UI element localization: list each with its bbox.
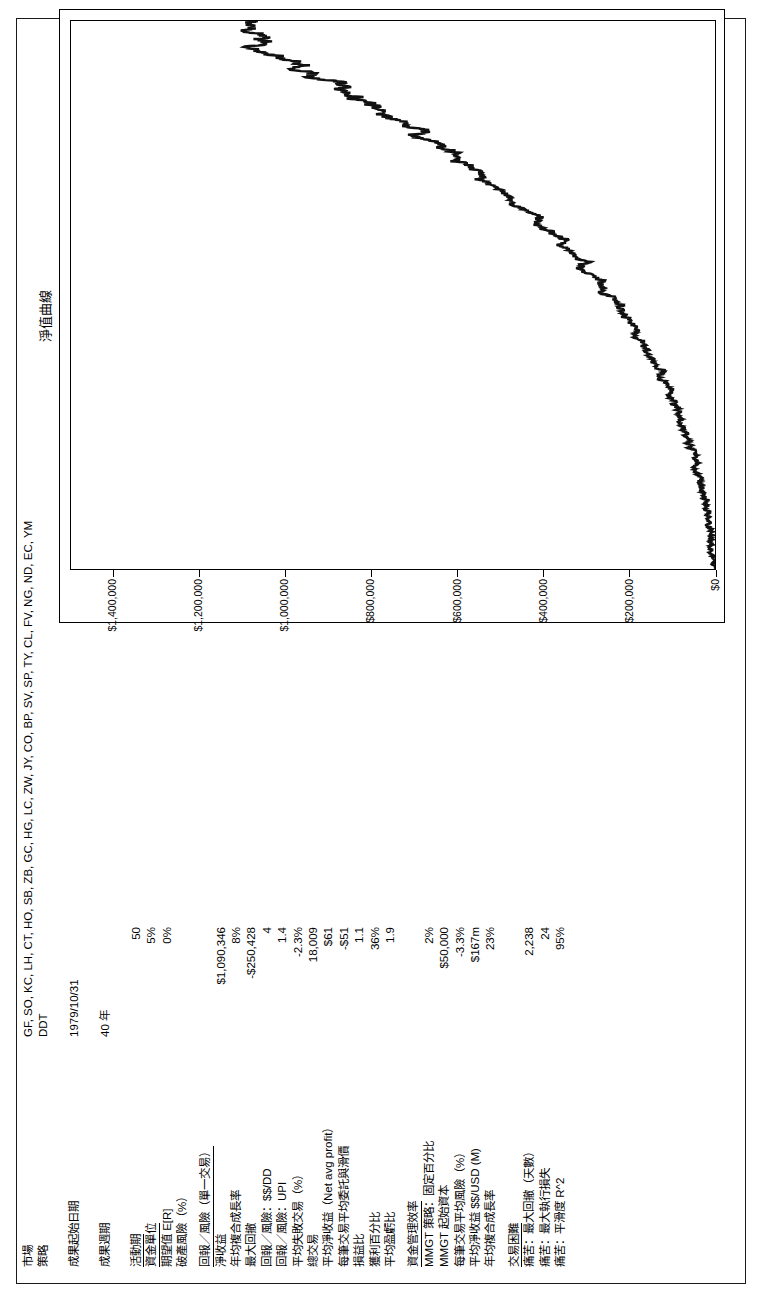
row-mmgt-cagr: 年均複合成長率 23% (485, 633, 500, 1273)
spacer-1 (54, 633, 69, 1273)
section-trade-difficulty: 交易困難 (509, 633, 524, 1273)
value-avg-commission-slippage: -$51 (339, 927, 351, 1037)
row-avg-loss-trade: 平均失敗交易（%） -2.3% (293, 633, 308, 1273)
row-rr-dd: 回報／風險：$$/DD 4 (262, 633, 277, 1273)
label-period: 成果週期 (100, 1223, 112, 1267)
value-period: 40 年 (100, 1010, 112, 1037)
chart-title: 淨值曲線 (35, 1, 54, 631)
label-expectancy: 期望值 E[R] (162, 1208, 174, 1267)
row-pain-smoothness: 痛苦：平滑度 R^2 95% (555, 633, 570, 1273)
equity-curve-chart: 淨值曲線 $1,400,000$1,200,000$1,000,000$800,… (25, 1, 737, 631)
plot-outer-frame: $1,400,000$1,200,000$1,000,000$800,000$6… (59, 9, 725, 623)
row-period: 成果週期 40 年 (100, 633, 115, 1273)
label-capital-unit: 資金單位 (146, 1223, 160, 1267)
row-avg-commission-slippage: 每筆交易平均委託與滑價 -$51 (339, 633, 354, 1273)
label-strategy: 策略 (38, 1245, 50, 1267)
row-net-avg-profit: 平均淨收益（Net avg profit） $61 (323, 633, 338, 1273)
y-axis-tick-mark (113, 570, 114, 577)
row-cagr: 年均複合成長率 8% (231, 633, 246, 1273)
spacer-2 (85, 633, 100, 1273)
label-rr-upi: 回報／風險：UPI (277, 1182, 289, 1267)
y-axis-tick-label: $1,200,000 (192, 579, 204, 649)
spacer-5 (400, 633, 408, 1273)
label-pain-max-exec-loss: 痛苦：最大執行損失 (540, 1168, 552, 1267)
label-mmgt-start-capital: MMGT 起始資本 (439, 1185, 451, 1267)
row-pain-max-exec-loss: 痛苦：最大執行損失 24 (540, 633, 555, 1273)
y-axis-tick-mark (629, 570, 630, 577)
row-avg-net-profit-usd: 平均淨收益 $$/USD (M) $167m (470, 633, 485, 1273)
value-pain-max-exec-loss: 24 (540, 927, 552, 1037)
row-pain-max-dd-days: 痛苦：最大回撤（天數） 2,238 (524, 633, 539, 1273)
value-mmgt-strategy: 2% (424, 927, 436, 1037)
value-avg-win-loss-ratio: 1.9 (385, 927, 397, 1037)
row-expectancy: 期望值 E[R] 0% (162, 633, 177, 1273)
label-mmgt-strategy: MMGT 策略：固定百分比 (424, 1141, 436, 1267)
plot-area (70, 20, 716, 570)
value-avg-trade-risk: -3.3% (455, 927, 467, 1037)
label-net-profit: 淨收益 (216, 1234, 228, 1267)
value-avg-loss-trade: -2.3% (293, 927, 305, 1037)
row-profit-loss-ratio: 損益比 1.1 (354, 633, 369, 1273)
row-net-profit: 淨收益 $1,090,346 (216, 633, 231, 1273)
section-return-risk: 回報／風險（單一交易） (200, 633, 215, 1273)
label-avg-loss-trade: 平均失敗交易（%） (293, 1169, 305, 1267)
y-axis-tick-label: $200,000 (623, 579, 635, 649)
value-strategy: DDT (38, 1013, 50, 1037)
y-axis-tick-mark (716, 570, 717, 577)
y-axis-tick-label: $800,000 (364, 579, 376, 649)
row-avg-trade-risk: 每筆交易平均風險（%） -3.3% (455, 633, 470, 1273)
row-mmgt-strategy: MMGT 策略：固定百分比 2% (424, 633, 439, 1273)
y-axis-tick-label: $1,000,000 (278, 579, 290, 649)
row-strategy: 策略 DDT (38, 633, 53, 1273)
row-capital-unit: 資金單位 5% (146, 633, 161, 1273)
report-page: 市場 GF, SO, KC, LH, CT, HO, SB, ZB, GC, H… (0, 0, 762, 1302)
row-mmgt-start-capital: MMGT 起始資本 $50,000 (439, 633, 454, 1273)
value-mmgt-cagr: 23% (485, 927, 497, 1037)
label-pain-smoothness: 痛苦：平滑度 R^2 (555, 1178, 567, 1267)
row-active-period: 活動期 50 (131, 633, 146, 1273)
spacer-3 (115, 633, 130, 1273)
value-active-period: 50 (131, 927, 143, 1037)
report-frame: 市場 GF, SO, KC, LH, CT, HO, SB, ZB, GC, H… (16, 18, 746, 1284)
value-pain-max-dd-days: 2,238 (524, 927, 536, 1037)
y-axis-tick-mark (371, 570, 372, 577)
y-axis-tick-mark (543, 570, 544, 577)
value-cagr: 8% (231, 927, 243, 1037)
label-ruin-risk: 破產風險（%） (177, 1191, 189, 1267)
report-stage: 市場 GF, SO, KC, LH, CT, HO, SB, ZB, GC, H… (0, 0, 762, 1302)
row-rr-upi: 回報／風險：UPI 1.4 (277, 633, 292, 1273)
y-axis-tick-label: $1,400,000 (106, 579, 118, 649)
label-rr-dd: 回報／風險：$$/DD (262, 1168, 274, 1267)
row-avg-win-loss-ratio: 平均盈虧比 1.9 (385, 633, 400, 1273)
label-max-drawdown: 最大回撤 (246, 1223, 258, 1267)
y-axis-tick-mark (199, 570, 200, 577)
y-axis: $1,400,000$1,200,000$1,000,000$800,000$6… (70, 570, 716, 622)
y-axis-tick-label: $600,000 (451, 579, 463, 649)
label-start-date: 成果起始日期 (69, 1201, 81, 1267)
row-market: 市場 GF, SO, KC, LH, CT, HO, SB, ZB, GC, H… (23, 633, 38, 1273)
label-net-avg-profit: 平均淨收益（Net avg profit） (323, 1122, 335, 1267)
value-net-profit: $1,090,346 (216, 927, 228, 1037)
value-total-trades: 18,009 (308, 927, 320, 1037)
label-cagr: 年均複合成長率 (231, 1190, 243, 1267)
label-avg-trade-risk: 每筆交易平均風險（%） (455, 1147, 467, 1267)
label-profit-loss-ratio: 損益比 (354, 1234, 366, 1267)
value-rr-upi: 1.4 (277, 927, 289, 1037)
label-total-trades: 總交易 (308, 1234, 320, 1267)
value-pain-smoothness: 95% (555, 927, 567, 1037)
label-section-money-management: 資金管理效率 (408, 1201, 422, 1267)
value-rr-dd: 4 (262, 927, 274, 1037)
y-axis-tick-label: $400,000 (537, 579, 549, 649)
label-active-period: 活動期 (131, 1234, 145, 1267)
label-avg-commission-slippage: 每筆交易平均委託與滑價 (339, 1146, 351, 1267)
value-capital-unit: 5% (146, 927, 158, 1037)
y-axis-tick-label: $0 (709, 579, 721, 649)
value-start-date: 1979/10/31 (69, 979, 81, 1037)
label-avg-net-profit-usd: 平均淨收益 $$/USD (M) (470, 1148, 482, 1267)
row-start-date: 成果起始日期 1979/10/31 (69, 633, 84, 1273)
value-expectancy: 0% (162, 927, 174, 1037)
y-axis-tick-mark (285, 570, 286, 577)
label-avg-win-loss-ratio: 平均盈虧比 (385, 1212, 397, 1267)
value-max-drawdown: -$250,428 (246, 927, 258, 1037)
value-mmgt-start-capital: $50,000 (439, 927, 451, 1037)
